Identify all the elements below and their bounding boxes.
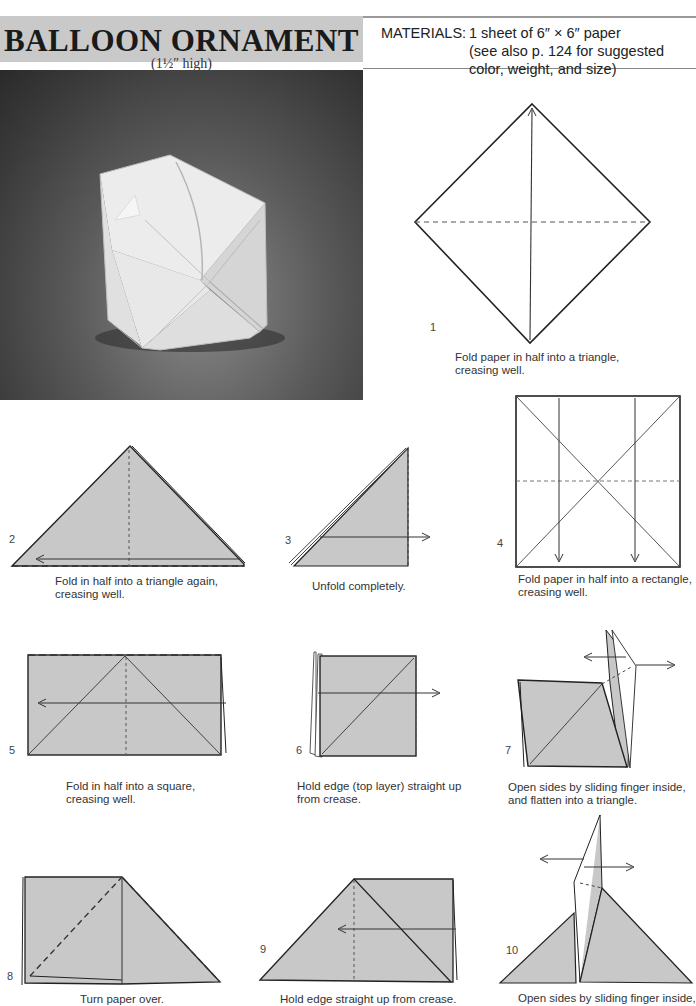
step-7-caption: Open sides by sliding finger inside, and… — [508, 781, 686, 807]
step-1: 1 Fold paper in half into a triangle, cr… — [400, 70, 696, 400]
step-4-number: 4 — [497, 537, 503, 549]
step-10-diagram — [480, 810, 696, 1006]
step-7: 7 Open sides by sliding finger inside, a… — [480, 630, 696, 820]
step-3-number: 3 — [285, 534, 291, 546]
step-1-caption: Fold paper in half into a triangle, crea… — [455, 351, 619, 377]
step-8-diagram — [0, 830, 250, 1006]
step-9-number: 9 — [260, 943, 266, 955]
step-3-caption: Unfold completely. — [312, 580, 406, 593]
step-4-diagram — [480, 380, 696, 600]
step-8-caption: Turn paper over. — [80, 993, 164, 1006]
step-6: 6 Hold edge (top layer) straight up from… — [260, 640, 480, 820]
step-5-caption-text: Fold in half into a square, creasing wel… — [66, 780, 195, 806]
step-6-caption: Hold edge (top layer) straight up from c… — [297, 780, 461, 806]
step-10-number: 10 — [506, 944, 518, 956]
step-1-number: 1 — [430, 321, 436, 333]
step-8: 8 Turn paper over. — [0, 830, 250, 1006]
step-9: 9 Hold edge straight up from crease. — [250, 830, 480, 1006]
step-10-caption: Open sides by sliding finger inside, — [518, 992, 696, 1005]
finished-model-photo — [0, 70, 363, 400]
step-9-caption: Hold edge straight up from crease. — [280, 993, 456, 1006]
title-banner: BALLOON ORNAMENT (1½″ high) — [0, 16, 363, 62]
step-4: 4 Fold paper in half into a rectangle, c… — [480, 380, 696, 600]
step-8-number: 8 — [7, 970, 13, 982]
header-rule-top — [363, 16, 696, 18]
step-5-number: 5 — [9, 744, 15, 756]
materials-label: MATERIALS: — [381, 24, 466, 42]
step-5: 5 Fold in half into a square, creasing w… — [0, 640, 260, 820]
balloon-cube-image — [0, 70, 363, 400]
page-title: BALLOON ORNAMENT — [0, 24, 363, 58]
step-9-diagram — [250, 830, 480, 1006]
step-7-number: 7 — [505, 744, 511, 756]
step-2-caption: Fold in half into a triangle again, crea… — [55, 575, 218, 601]
step-2: 2 Fold in half into a triangle again, cr… — [0, 430, 260, 610]
step-10: 10 Open sides by sliding finger inside, — [480, 810, 696, 1006]
step-4-caption: Fold paper in half into a rectangle, cre… — [518, 573, 692, 599]
step-3: 3 Unfold completely. — [260, 430, 480, 610]
step-2-number: 2 — [9, 533, 15, 545]
step-6-number: 6 — [296, 744, 302, 756]
materials-line-1: 1 sheet of 6″ × 6″ paper — [469, 24, 694, 42]
